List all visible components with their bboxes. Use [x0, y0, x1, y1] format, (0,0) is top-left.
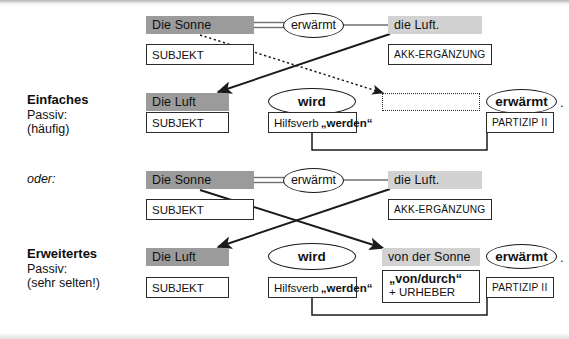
verb-bracket-1 [312, 133, 487, 150]
aux-label-plain-2: Hilfsverb [274, 282, 319, 294]
passive-aux-label-1: Hilfsverb„werden“ [268, 112, 357, 133]
active-object-label-2: AKK-ERGÄNZUNG [388, 199, 492, 220]
active-verb-ellipse-2: erwärmt [283, 168, 344, 193]
caption-oder: oder: [27, 172, 56, 187]
passive-subject-label-1: SUBJEKT [146, 112, 229, 133]
caption-erweitertes-title: Erweitertes [27, 247, 100, 262]
passive-aux-ellipse-1: wird [268, 88, 356, 115]
passive-agent-chip-2: von der Sonne [382, 248, 480, 266]
aux-label-plain-1: Hilfsverb [274, 117, 319, 129]
active-verb-ellipse-1: erwärmt [283, 13, 344, 38]
caption-erweitertes: Erweitertes Passiv: (sehr selten!) [27, 247, 100, 291]
agent-label-bold-2: „von/durch“ [389, 273, 473, 286]
caption-einfaches-title: Einfaches [27, 93, 88, 108]
diagram-canvas: Einfaches Passiv: (häufig) Die Sonne SUB… [0, 0, 569, 339]
active-object-chip-1: die Luft. [388, 16, 482, 34]
active-subject-label-1: SUBJEKT [146, 44, 254, 65]
active-object-label-1: AKK-ERGÄNZUNG [388, 44, 492, 65]
active-subject-chip-1: Die Sonne [146, 16, 254, 34]
caption-erweitertes-line3: (sehr selten!) [27, 276, 100, 291]
passive-aux-label-2: Hilfsverb„werden“ [268, 277, 357, 298]
passive-participle-label-1: PARTIZIP II [486, 112, 554, 133]
caption-oder-text: oder: [27, 172, 56, 187]
caption-einfaches: Einfaches Passiv: (häufig) [27, 93, 88, 137]
passive-participle-ellipse-1: erwärmt [486, 89, 557, 114]
active-object-chip-2: die Luft. [388, 171, 482, 189]
agent-label-plain-2: + URHEBER [389, 286, 473, 299]
passive-period-1: . [560, 95, 564, 110]
active-subject-chip-2: Die Sonne [146, 171, 254, 189]
passive-subject-chip-1: Die Luft [146, 93, 229, 111]
passive-participle-label-2: PARTIZIP II [486, 277, 554, 298]
passive-participle-ellipse-2: erwärmt [486, 244, 557, 269]
passive-agent-empty-slot-1 [382, 93, 480, 111]
passive-subject-label-2: SUBJEKT [146, 277, 229, 298]
passive-period-2: . [560, 250, 564, 265]
caption-einfaches-line3: (häufig) [27, 122, 88, 137]
active-subject-label-2: SUBJEKT [146, 199, 254, 220]
passive-aux-ellipse-2: wird [268, 243, 356, 270]
caption-erweitertes-line2: Passiv: [27, 262, 100, 277]
passive-agent-label-2: „von/durch“ + URHEBER [382, 270, 480, 303]
aux-label-bold-2: „werden“ [321, 282, 373, 294]
caption-einfaches-line2: Passiv: [27, 108, 88, 123]
passive-subject-chip-2: Die Luft [146, 248, 229, 266]
aux-label-bold-1: „werden“ [321, 117, 373, 129]
